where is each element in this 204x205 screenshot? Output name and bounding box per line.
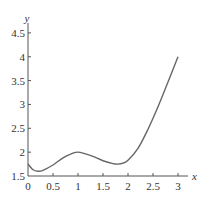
x-tick-label: 2	[125, 180, 131, 192]
y-tick-label: 4.5	[11, 27, 25, 39]
y-tick-label: 4	[20, 51, 26, 63]
x-axis-label: x	[191, 170, 197, 182]
x-tick-label: 0	[25, 180, 31, 192]
y-axis-label: y	[24, 12, 30, 24]
y-tick-label: 3	[20, 98, 26, 110]
x-tick-label: 1	[75, 180, 81, 192]
x-tick-label: 3	[175, 180, 181, 192]
y-tick-label: 2	[20, 146, 26, 158]
axes: 1.522.533.544.500.511.522.53xy	[11, 12, 197, 192]
function-curve	[28, 57, 178, 172]
y-tick-label: 2.5	[11, 122, 25, 134]
y-tick-label: 3.5	[11, 75, 25, 87]
x-tick-label: 2.5	[146, 180, 160, 192]
y-tick-label: 1.5	[11, 170, 25, 182]
x-tick-label: 1.5	[96, 180, 110, 192]
x-tick-label: 0.5	[46, 180, 60, 192]
line-chart: 1.522.533.544.500.511.522.53xy	[0, 0, 204, 205]
data-curve	[28, 57, 178, 172]
